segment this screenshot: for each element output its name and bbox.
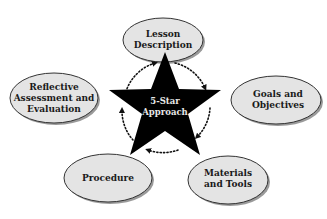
node-label-line3: Evaluation <box>27 104 81 114</box>
center-label-line2: Approach <box>141 107 188 117</box>
node-label-line1: Reflective <box>29 82 79 92</box>
cycle-arrow-4 <box>148 150 178 153</box>
node-label-line1: Procedure <box>82 173 134 183</box>
node-label-line2: Assessment and <box>13 93 95 103</box>
node-label-line1: Materials <box>204 168 252 178</box>
node-label-line1: Goals and <box>253 89 304 99</box>
node-reflective-assessment: Reflective Assessment and Evaluation <box>10 73 100 125</box>
node-goals-objectives: Goals and Objectives <box>231 76 323 126</box>
cycle-arrow-2 <box>175 63 205 88</box>
five-star-approach-diagram: Lesson Description Reflective Assessment… <box>0 0 327 219</box>
node-procedure: Procedure <box>64 154 154 204</box>
node-materials-tools: Materials and Tools <box>188 156 270 206</box>
cycle-arrow-5 <box>122 110 133 140</box>
node-label-line2: Objectives <box>252 100 304 110</box>
node-label-line1: Lesson <box>146 29 181 39</box>
center-star: 5-Star Approach <box>109 52 221 155</box>
node-label-line2: and Tools <box>204 179 252 189</box>
center-label-line1: 5-Star <box>150 96 180 106</box>
cycle-arrow-3 <box>197 108 210 137</box>
node-label-line2: Description <box>134 40 193 50</box>
